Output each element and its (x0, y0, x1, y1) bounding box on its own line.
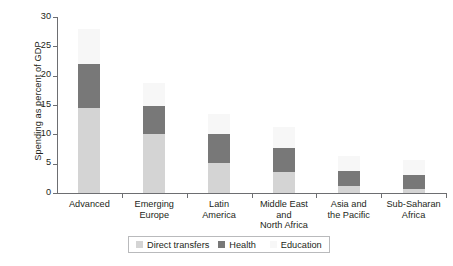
bar-segment (403, 189, 425, 193)
x-axis-separator (122, 193, 123, 198)
y-axis-tick-mark (53, 164, 57, 165)
bar-segment (143, 106, 165, 134)
chart-legend: Direct transfersHealthEducation (128, 236, 330, 253)
x-axis-separator (381, 193, 382, 198)
y-axis-tick-label: 0 (46, 187, 51, 197)
bar-segment (403, 175, 425, 189)
bar-segment (338, 186, 360, 193)
y-axis-tick-label: 30 (41, 11, 51, 21)
category-label-line: America (187, 210, 252, 221)
legend-swatch (270, 241, 277, 248)
x-axis-category-label: Middle East andNorth Africa (252, 199, 317, 231)
legend-label: Health (229, 240, 256, 250)
y-axis-tick-mark (53, 76, 57, 77)
category-label-line: Advanced (57, 199, 122, 210)
bar-segment (273, 148, 295, 172)
bar-group (338, 17, 360, 193)
category-label-line: the Pacific (316, 210, 381, 221)
legend-label: Direct transfers (147, 240, 209, 250)
category-label-line: Sub-Saharan (381, 199, 446, 210)
bar-segment (208, 114, 230, 135)
category-label-line: Asia and (316, 199, 381, 210)
bar-segment (143, 134, 165, 193)
legend-item: Direct transfers (136, 240, 209, 250)
legend-swatch (218, 241, 225, 248)
x-axis-category-label: EmergingEurope (122, 199, 187, 220)
y-axis-tick-mark (53, 46, 57, 47)
plot-area: 051015202530 AdvancedEmergingEuropeLatin… (57, 17, 446, 193)
chart-figure: Spending as percent of GDP 051015202530 … (0, 0, 453, 266)
category-label-line: Europe (122, 210, 187, 221)
y-axis-tick-mark (53, 193, 57, 194)
legend-label: Education (281, 240, 322, 250)
y-axis-tick-label: 5 (46, 157, 51, 167)
bar-segment (208, 134, 230, 163)
y-axis-tick-mark (53, 17, 57, 18)
x-axis-category-label: LatinAmerica (187, 199, 252, 220)
bar-group (273, 17, 295, 193)
category-label-line: Latin (187, 199, 252, 210)
y-axis-tick-mark (53, 134, 57, 135)
bar-segment (403, 160, 425, 175)
x-axis-category-label: Sub-SaharanAfrica (381, 199, 446, 220)
y-axis-tick-label: 20 (41, 69, 51, 79)
category-label-line: Middle East and (252, 199, 317, 220)
x-axis-separator (252, 193, 253, 198)
x-axis-separator (446, 193, 447, 198)
y-axis-tick-mark (53, 105, 57, 106)
category-label-line: North Africa (252, 220, 317, 231)
bar-segment (338, 171, 360, 186)
bar-segment (273, 127, 295, 148)
bar-segment (208, 163, 230, 193)
category-label-line: Emerging (122, 199, 187, 210)
bar-group (143, 17, 165, 193)
category-label-line: Africa (381, 210, 446, 221)
x-axis-category-label: Asia andthe Pacific (316, 199, 381, 220)
legend-item: Education (270, 240, 322, 250)
bar-group (78, 17, 100, 193)
bar-group (208, 17, 230, 193)
y-axis-tick-label: 10 (41, 128, 51, 138)
bar-segment (143, 83, 165, 106)
legend-swatch (136, 241, 143, 248)
bar-segment (78, 108, 100, 193)
y-axis-line (57, 17, 58, 194)
x-axis-separator (316, 193, 317, 198)
x-axis-category-label: Advanced (57, 199, 122, 210)
bar-segment (78, 29, 100, 64)
y-axis-tick-label: 15 (41, 99, 51, 109)
bar-segment (338, 156, 360, 171)
bar-group (403, 17, 425, 193)
bar-segment (78, 64, 100, 108)
bar-segment (273, 172, 295, 193)
x-axis-separator (187, 193, 188, 198)
y-axis-tick-label: 25 (41, 40, 51, 50)
legend-item: Health (218, 240, 256, 250)
